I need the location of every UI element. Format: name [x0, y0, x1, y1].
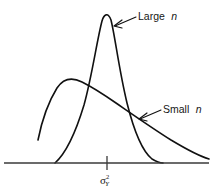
annotation-large-n: Large n [138, 10, 177, 22]
annotation-small-n: Small n [163, 103, 202, 115]
sigma-superscript: 2 [106, 173, 109, 180]
sampling-distribution-chart: Large n Small n σ2Y [0, 0, 213, 193]
annotation-small-n-text: Small [163, 103, 189, 115]
x-axis-tick-label: σ2Y [100, 173, 110, 187]
annotation-small-n-symbol: n [196, 103, 202, 115]
annotation-large-n-text: Large [138, 10, 165, 22]
annotation-large-n-symbol: n [171, 10, 177, 22]
